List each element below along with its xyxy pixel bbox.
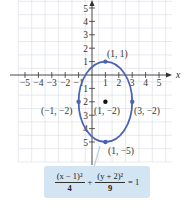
- point-label-right: (3, −2): [134, 106, 160, 117]
- x-tick-label: 2: [116, 78, 121, 88]
- equals-one: = 1: [128, 177, 139, 188]
- x-tick-label: −2: [60, 78, 70, 88]
- x-axis-arrow-icon: [166, 73, 172, 78]
- point-label-bottom: (1, −5): [108, 146, 134, 157]
- x-tick-labels: −5 −4 −3 −2 −1 1 2 3 4 5 x: [20, 70, 181, 88]
- numerator-y: (y + 2)²: [95, 171, 125, 183]
- y-tick-label: 5: [83, 138, 88, 148]
- y-axis-arrow-icon: [90, 0, 95, 6]
- y-tick-label: 2: [83, 44, 88, 54]
- y-tick-label: 4: [83, 17, 88, 27]
- y-tick-label: 1: [83, 84, 88, 94]
- x-tick-label: 4: [143, 78, 148, 88]
- center-point: [103, 100, 107, 104]
- vertex-point-right: [130, 100, 134, 104]
- x-tick-label: 1: [103, 78, 108, 88]
- point-label-center: (1, −2): [94, 106, 120, 117]
- point-label-top: (1, 1): [107, 49, 128, 60]
- vertex-point-left: [76, 100, 80, 104]
- x-tick-label: −3: [47, 78, 57, 88]
- x-axis-label: x: [175, 70, 181, 80]
- denominator-x: 4: [68, 183, 72, 194]
- fraction-y: (y + 2)² 9: [95, 171, 125, 194]
- x-tick-label: −5: [20, 78, 30, 88]
- y-tick-label: 1: [83, 57, 88, 67]
- numerator-x: (x − 1)²: [55, 171, 85, 183]
- x-tick-label: −4: [33, 78, 43, 88]
- denominator-y: 9: [108, 183, 112, 194]
- plus-sign: +: [88, 177, 93, 188]
- fraction-x: (x − 1)² 4: [55, 171, 85, 194]
- x-tick-label: 5: [157, 78, 162, 88]
- y-tick-label: 5: [83, 4, 88, 14]
- y-tick-label: 2: [83, 97, 88, 107]
- y-tick-label: 3: [83, 111, 88, 121]
- point-label-left: (−1, −2): [41, 106, 72, 117]
- equation-callout: (x − 1)² 4 + (y + 2)² 9 = 1: [44, 166, 150, 198]
- vertex-point-top: [103, 59, 107, 63]
- callout-pointer: [94, 146, 100, 167]
- vertex-point-bottom: [103, 140, 107, 144]
- y-tick-label: 3: [83, 30, 88, 40]
